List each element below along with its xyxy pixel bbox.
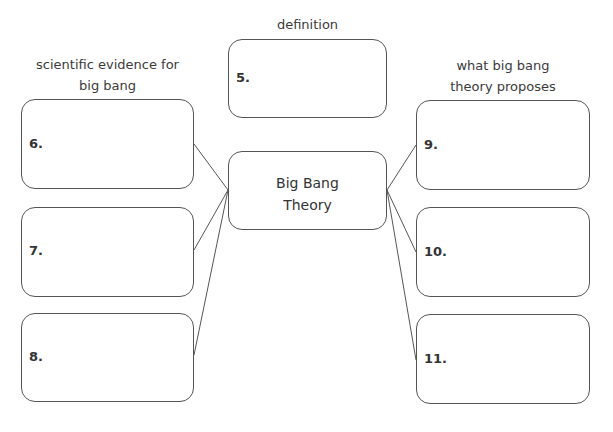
- evidence-box-6[interactable]: 6.: [21, 99, 194, 189]
- box-number: 10.: [424, 244, 447, 259]
- heading-scientific-evidence: scientific evidence for big bang: [0, 54, 215, 96]
- definition-box-5[interactable]: 5.: [228, 39, 387, 118]
- center-topic-box: Big Bang Theory: [228, 151, 387, 230]
- heading-what-theory-proposes: what big bang theory proposes: [416, 55, 590, 97]
- evidence-box-8[interactable]: 8.: [21, 313, 194, 402]
- box-number: 7.: [29, 243, 43, 258]
- box-number: 11.: [424, 351, 447, 366]
- proposes-box-10[interactable]: 10.: [416, 207, 590, 297]
- heading-definition: definition: [228, 14, 387, 35]
- evidence-box-7[interactable]: 7.: [21, 207, 194, 297]
- center-topic-label: Big Bang Theory: [229, 172, 386, 216]
- proposes-box-11[interactable]: 11.: [416, 314, 590, 404]
- box-number: 5.: [236, 70, 250, 85]
- box-number: 6.: [29, 136, 43, 151]
- box-number: 9.: [424, 137, 438, 152]
- box-number: 8.: [29, 349, 43, 364]
- proposes-box-9[interactable]: 9.: [416, 100, 590, 190]
